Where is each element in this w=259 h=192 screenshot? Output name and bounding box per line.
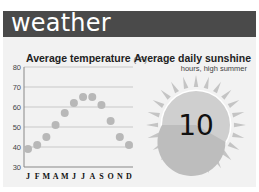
- sun-ray: [228, 100, 240, 108]
- sun-ray: [213, 82, 221, 94]
- sun-ray: [204, 77, 209, 89]
- sun-ray: [221, 90, 231, 100]
- sun-ray: [232, 112, 244, 117]
- sun-ray: [153, 100, 165, 108]
- sun-ray: [183, 77, 188, 89]
- sun-ray: [148, 112, 160, 117]
- sun-ray: [232, 133, 244, 138]
- sunshine-value: 10: [178, 109, 214, 142]
- sun-ray: [161, 90, 171, 100]
- sun-ray: [234, 123, 246, 128]
- sun-ray: [228, 142, 240, 150]
- sun-ray: [171, 82, 179, 94]
- sun-ray: [146, 123, 158, 128]
- sun-ray: [194, 75, 199, 87]
- sunshine-chart: 10: [0, 0, 259, 192]
